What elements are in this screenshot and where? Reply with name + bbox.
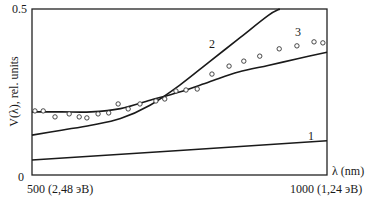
curve-1 [32,141,327,160]
data-point-marker [227,64,231,68]
data-point-marker [77,115,81,119]
data-point-marker [138,102,142,106]
curve-2-label: 2 [209,37,215,52]
data-point-marker [154,99,158,103]
data-point-marker [321,41,325,45]
data-point-marker [258,54,262,58]
data-point-marker [33,109,37,113]
data-point-marker [277,47,281,51]
data-point-marker [195,87,199,91]
data-point-marker [295,44,299,48]
data-point-marker [163,97,167,101]
y-tick-top: 0.5 [12,2,27,17]
data-point-marker [116,102,120,106]
chart-plot [0,0,377,204]
x-tick-left: 500 (2,48 эВ) [27,182,93,197]
data-point-marker [312,40,316,44]
y-tick-bottom: 0 [18,170,24,185]
data-point-marker [184,88,188,92]
curve-3 [32,52,327,112]
data-point-marker [96,112,100,116]
data-point-marker [126,107,130,111]
x-axis-label: λ (nm) [332,164,364,179]
data-point-marker [174,89,178,93]
data-point-marker [107,111,111,115]
curve-3-label: 3 [295,25,301,40]
data-point-marker [41,109,45,113]
data-point-marker [210,72,214,76]
data-point-marker [85,116,89,120]
y-axis-label: V(λ), rel. units [7,32,22,152]
data-point-marker [67,112,71,116]
x-tick-right: 1000 (1,24 эВ) [290,182,362,197]
data-point-marker [242,59,246,63]
data-point-marker [53,115,57,119]
curve-1-label: 1 [308,129,314,144]
